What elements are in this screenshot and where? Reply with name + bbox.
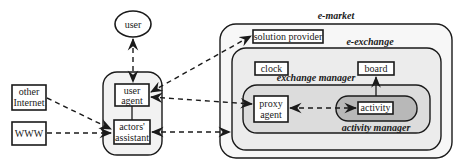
other-internet-label-line1: other bbox=[19, 86, 40, 97]
e-exchange-label: e-exchange bbox=[346, 36, 394, 47]
solution-provider-node[interactable]: solution provider bbox=[253, 30, 323, 43]
activity-node[interactable]: activity bbox=[358, 102, 393, 114]
user-agent-node[interactable]: user agent bbox=[115, 84, 149, 106]
activity-label: activity bbox=[361, 102, 391, 113]
activity-manager-label: activity manager bbox=[342, 122, 411, 133]
proxy-agent-label-line1: proxy bbox=[259, 98, 282, 109]
proxy-agent-label-line2: agent bbox=[260, 109, 282, 120]
user-label: user bbox=[125, 19, 142, 30]
board-label: board bbox=[365, 63, 388, 74]
user-node[interactable]: user bbox=[115, 11, 151, 37]
internet-assistant-arrow bbox=[47, 98, 111, 129]
actors-assistant-label-line2: assistant bbox=[115, 132, 149, 143]
solution-provider-label: solution provider bbox=[254, 31, 323, 42]
www-node[interactable]: WWW bbox=[12, 122, 46, 145]
actors-assistant-label-line1: actors' bbox=[119, 121, 145, 132]
user-agent-label-line2: agent bbox=[121, 95, 143, 106]
other-internet-label-line2: Internet bbox=[13, 97, 44, 108]
proxy-agent-node[interactable]: proxy agent bbox=[254, 96, 288, 122]
e-market-label: e-market bbox=[318, 10, 356, 21]
diagram-canvas: e-market solution provider e-exchange cl… bbox=[0, 0, 465, 166]
www-label: WWW bbox=[15, 128, 44, 139]
other-internet-node[interactable]: other Internet bbox=[12, 85, 46, 110]
exchange-manager-label: exchange manager bbox=[277, 72, 356, 83]
board-node[interactable]: board bbox=[358, 62, 394, 75]
actors-assistant-node[interactable]: actors' assistant bbox=[114, 120, 150, 144]
